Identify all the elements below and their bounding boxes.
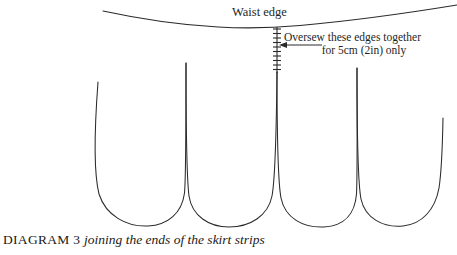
- skirt-loop-1: [95, 63, 186, 226]
- skirt-strip-loops: [95, 63, 443, 227]
- skirt-loop-4: [357, 68, 443, 226]
- oversewn-seam-group: [273, 27, 281, 73]
- oversew-annotation-line-1: Oversew these edges together: [284, 31, 454, 44]
- diagram-container: Waist edge Oversew these edges together …: [0, 0, 457, 255]
- diagram-caption-title: DIAGRAM 3: [3, 232, 84, 247]
- diagram-caption: DIAGRAM 3 joining the ends of the skirt …: [3, 232, 265, 248]
- waist-edge-label: Waist edge: [232, 5, 287, 19]
- skirt-loop-2: [186, 63, 277, 227]
- skirt-loop-3: [277, 68, 357, 227]
- oversew-annotation-line-2: for 5cm (2in) only: [284, 44, 454, 57]
- oversew-annotation: Oversew these edges together for 5cm (2i…: [284, 31, 454, 57]
- diagram-caption-description: joining the ends of the skirt strips: [84, 232, 265, 247]
